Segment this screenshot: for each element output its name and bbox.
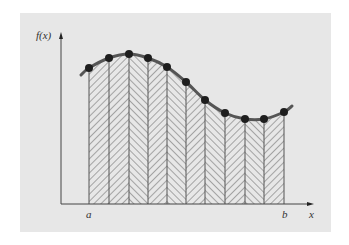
node-point-icon bbox=[144, 54, 152, 62]
integration-figure bbox=[0, 0, 349, 245]
node-point-icon bbox=[241, 115, 249, 123]
hatched-strip bbox=[89, 58, 109, 204]
node-point-icon bbox=[221, 109, 229, 117]
hatched-strip bbox=[167, 67, 186, 204]
lower-limit-label: a bbox=[86, 208, 92, 220]
hatched-strip bbox=[245, 119, 264, 204]
node-point-icon bbox=[201, 96, 209, 104]
x-axis-label: x bbox=[309, 208, 314, 220]
hatched-strip bbox=[109, 54, 129, 204]
node-point-icon bbox=[182, 78, 190, 86]
node-point-icon bbox=[163, 63, 171, 71]
node-point-icon bbox=[125, 50, 133, 58]
hatched-strip bbox=[264, 112, 284, 204]
node-point-icon bbox=[105, 54, 113, 62]
upper-limit-label: b bbox=[282, 208, 288, 220]
y-axis-label: f(x) bbox=[36, 29, 51, 41]
node-point-icon bbox=[260, 115, 268, 123]
hatched-strip bbox=[148, 58, 167, 204]
hatched-strip bbox=[129, 54, 148, 204]
node-point-icon bbox=[85, 64, 93, 72]
node-point-icon bbox=[280, 108, 288, 116]
hatched-strip bbox=[225, 113, 245, 204]
